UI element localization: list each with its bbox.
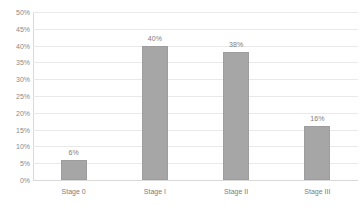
- y-axis-tick-label: 45%: [2, 26, 30, 33]
- gridline: [33, 79, 358, 80]
- bar: [223, 52, 249, 180]
- gridline: [33, 29, 358, 30]
- gridline: [33, 46, 358, 47]
- gridline: [33, 180, 358, 181]
- y-axis-tick-label: 10%: [2, 143, 30, 150]
- bar-value-label: 16%: [297, 115, 337, 122]
- bar: [304, 126, 330, 180]
- bar: [61, 160, 87, 180]
- bar: [142, 46, 168, 180]
- gridline: [33, 96, 358, 97]
- bar-value-label: 38%: [216, 41, 256, 48]
- gridline: [33, 12, 358, 13]
- y-axis-tick-label: 35%: [2, 59, 30, 66]
- bar-chart: 50%45%40%35%30%25%20%15%10%5%0% 6%40%38%…: [0, 0, 362, 206]
- y-axis-tick-label: 40%: [2, 43, 30, 50]
- x-axis-category-label: Stage 0: [39, 188, 109, 195]
- x-axis-category-label: Stage III: [282, 188, 352, 195]
- x-axis-category-label: Stage I: [120, 188, 190, 195]
- y-axis-tick-label: 50%: [2, 9, 30, 16]
- y-axis-tick-label: 20%: [2, 110, 30, 117]
- y-axis-tick-label: 30%: [2, 76, 30, 83]
- y-axis-tick-labels: 50%45%40%35%30%25%20%15%10%5%0%: [0, 0, 30, 206]
- y-axis-tick-label: 5%: [2, 160, 30, 167]
- bar-value-label: 40%: [135, 35, 175, 42]
- x-axis-category-label: Stage II: [201, 188, 271, 195]
- gridline: [33, 62, 358, 63]
- y-axis-tick-label: 0%: [2, 177, 30, 184]
- chart-title-remnant: [0, 0, 362, 7]
- plot-area: 6%40%38%16%: [33, 12, 358, 180]
- y-axis-tick-label: 15%: [2, 127, 30, 134]
- bar-value-label: 6%: [54, 149, 94, 156]
- gridline: [33, 113, 358, 114]
- y-axis-tick-label: 25%: [2, 93, 30, 100]
